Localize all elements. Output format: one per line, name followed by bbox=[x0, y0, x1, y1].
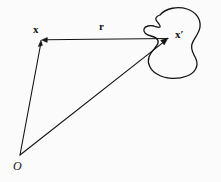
label-origin-o: O bbox=[13, 160, 22, 172]
label-separation-vector-r: r bbox=[99, 21, 104, 32]
source-region-blob-icon bbox=[144, 8, 200, 79]
vector-r-arrowhead-icon bbox=[42, 37, 48, 42]
vector-r-shaft bbox=[45, 39, 168, 40]
label-source-point-x: x bbox=[33, 24, 39, 35]
label-field-point-x-prime: x′ bbox=[175, 29, 184, 40]
vector-x-arrowhead-icon bbox=[38, 40, 42, 47]
vector-x-shaft bbox=[20, 45, 41, 156]
vector-x-prime-shaft bbox=[20, 41, 165, 155]
vector-diagram-figure: x r x′ O bbox=[0, 0, 221, 182]
